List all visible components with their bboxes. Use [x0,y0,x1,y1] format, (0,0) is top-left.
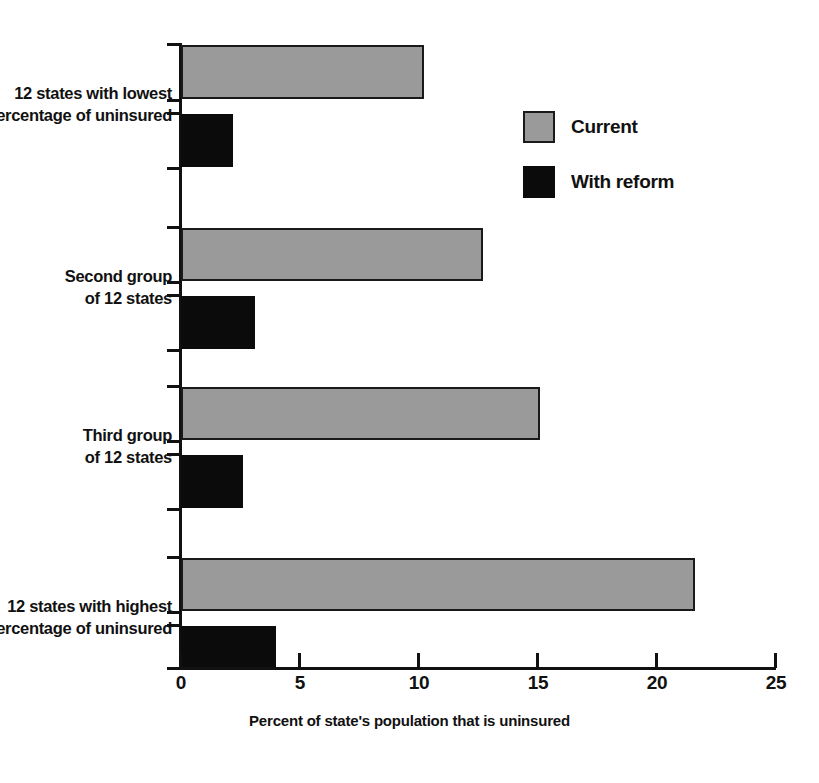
x-axis-tick-label: 15 [518,672,558,694]
y-axis-tick [167,349,182,352]
category-label-line: Third group [0,424,172,446]
x-axis-tick-label: 10 [399,672,439,694]
chart-legend: Current With reform [523,110,674,220]
x-axis-title: Percent of state's population that is un… [0,712,819,729]
bar-chart-plot-area: 12 states with lowest percentage of unin… [0,0,819,783]
legend-item-reform: With reform [523,165,674,198]
bar-reform-group-4 [181,626,276,667]
category-label-group-4: 12 states with highest percentage of uni… [0,595,172,640]
x-axis-tick-label: 20 [637,672,677,694]
category-label-line: Second group [0,265,172,287]
category-label-line: of 12 states [0,287,172,309]
x-axis-line [179,667,776,670]
legend-swatch-reform-icon [523,166,555,198]
y-axis-tick [167,226,182,229]
bar-reform-group-2 [181,296,255,349]
x-axis-tick [536,653,539,668]
bar-current-group-2 [181,228,483,281]
chart-page: 12 states with lowest percentage of unin… [0,0,819,783]
category-label-group-1: 12 states with lowest percentage of unin… [0,82,172,127]
y-axis-tick [167,385,182,388]
x-axis-tick [298,653,301,668]
legend-item-current: Current [523,110,674,143]
y-axis-tick [167,43,182,46]
bar-current-group-1 [181,45,424,99]
bar-reform-group-1 [181,114,233,167]
bar-reform-group-3 [181,455,243,508]
y-axis-tick [167,556,182,559]
legend-label-reform: With reform [571,171,674,193]
category-label-line: percentage of uninsured [0,617,172,639]
x-axis-tick [774,653,777,668]
x-axis-tick [655,653,658,668]
y-axis-tick [167,508,182,511]
x-axis-tick [179,653,182,668]
category-label-line: of 12 states [0,446,172,468]
x-axis-tick-label: 5 [280,672,320,694]
x-axis-tick [417,653,420,668]
x-axis-tick-label: 25 [756,672,796,694]
category-label-line: percentage of uninsured [0,104,172,126]
bar-current-group-3 [181,387,540,440]
category-label-line: 12 states with lowest [0,82,172,104]
category-label-group-2: Second group of 12 states [0,265,172,310]
legend-swatch-current-icon [523,111,555,143]
category-label-line: 12 states with highest [0,595,172,617]
bar-current-group-4 [181,558,695,611]
x-axis-tick-label: 0 [161,672,201,694]
y-axis-tick [167,167,182,170]
category-label-group-3: Third group of 12 states [0,424,172,469]
legend-label-current: Current [571,116,638,138]
